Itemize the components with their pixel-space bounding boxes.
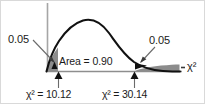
left-critical-value-label: χ² = 10.12 (26, 89, 71, 100)
left-critical-value-marker (55, 72, 63, 80)
right-critical-value-label: χ² = 30.14 (102, 89, 147, 100)
central-area-label: Area = 0.90 (59, 56, 112, 67)
left-tail-alpha-label: 0.05 (8, 34, 29, 45)
x-axis-title: χ² (187, 61, 196, 72)
chi-square-distribution-figure: 0.05 0.05 Area = 0.90 χ² χ² = 10.12 χ² =… (0, 0, 205, 104)
right-critical-value-marker (131, 72, 139, 80)
right-tail-alpha-label: 0.05 (149, 35, 170, 46)
